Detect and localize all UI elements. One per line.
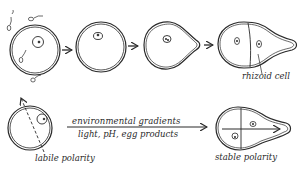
egg-with-sperm bbox=[7, 10, 60, 82]
zygote bbox=[76, 22, 126, 72]
stable-polarity-embryo bbox=[216, 107, 291, 150]
stable-polarity-label: stable polarity bbox=[215, 152, 277, 162]
two-cell-embryo bbox=[218, 22, 297, 74]
labile-polarity-label: labile polarity bbox=[35, 153, 95, 163]
nucleus-icon bbox=[37, 114, 47, 124]
rhizoid-cell-label: rhizoid cell bbox=[242, 71, 290, 81]
bulging-zygote bbox=[144, 22, 200, 69]
gradient-factors-label: light, pH, egg products bbox=[78, 129, 178, 139]
labile-polarity-egg bbox=[8, 98, 52, 152]
environmental-gradients-label: environmental gradients bbox=[72, 116, 180, 126]
polarity-diagram: rhizoid cell environmental gradients lig… bbox=[0, 0, 304, 178]
